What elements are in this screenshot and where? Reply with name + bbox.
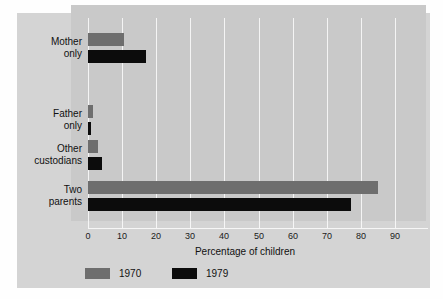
tick-label-90: 90 xyxy=(383,231,407,242)
gridline-30 xyxy=(190,18,191,228)
tick-label-60: 60 xyxy=(281,231,305,242)
tick-label-80: 80 xyxy=(349,231,373,242)
bar-1979-Father-only xyxy=(88,122,91,135)
bar-1970-Father-only xyxy=(88,105,93,118)
gridline-80 xyxy=(361,18,362,228)
legend-label-1970: 1970 xyxy=(119,268,141,279)
gridline-50 xyxy=(259,18,260,228)
tick-60 xyxy=(293,222,294,228)
category-label-line: custodians xyxy=(0,155,82,167)
tick-label-50: 50 xyxy=(247,231,271,242)
chart-figure: 0102030405060708090 MotheronlyFatheronly… xyxy=(0,0,443,299)
category-label-Father-only: Fatheronly xyxy=(0,108,82,132)
category-label-Mother-only: Motheronly xyxy=(0,36,82,60)
bar-1979-Mother-only xyxy=(88,50,146,63)
category-label-line: Two xyxy=(0,184,82,196)
tick-10 xyxy=(122,222,123,228)
bar-1970-Two-parents xyxy=(88,181,378,194)
category-label-Two-parents: Twoparents xyxy=(0,184,82,208)
category-label-line: Other xyxy=(0,143,82,155)
legend-label-1979: 1979 xyxy=(206,268,228,279)
tick-label-40: 40 xyxy=(212,231,236,242)
tick-label-0: 0 xyxy=(76,231,100,242)
x-axis-title: Percentage of children xyxy=(150,246,340,257)
legend-swatch-1979 xyxy=(172,268,197,279)
category-label-line: only xyxy=(0,120,82,132)
tick-label-10: 10 xyxy=(110,231,134,242)
legend-swatch-1970 xyxy=(85,268,110,279)
bar-1979-Two-parents xyxy=(88,198,351,211)
gridline-90 xyxy=(395,18,396,228)
bar-1970-Other-custodians xyxy=(88,140,98,153)
tick-40 xyxy=(224,222,225,228)
tick-label-20: 20 xyxy=(144,231,168,242)
tick-80 xyxy=(361,222,362,228)
tick-label-70: 70 xyxy=(315,231,339,242)
tick-0 xyxy=(88,222,89,228)
gridline-70 xyxy=(327,18,328,228)
legend-item-1970: 1970 xyxy=(85,266,141,280)
tick-90 xyxy=(395,222,396,228)
category-label-line: only xyxy=(0,48,82,60)
gridline-60 xyxy=(293,18,294,228)
x-axis-line xyxy=(88,228,428,229)
bar-1979-Other-custodians xyxy=(88,157,102,170)
tick-label-30: 30 xyxy=(178,231,202,242)
tick-50 xyxy=(259,222,260,228)
tick-70 xyxy=(327,222,328,228)
bar-1970-Mother-only xyxy=(88,33,124,46)
legend-item-1979: 1979 xyxy=(172,266,228,280)
tick-20 xyxy=(156,222,157,228)
tick-30 xyxy=(190,222,191,228)
category-label-line: Father xyxy=(0,108,82,120)
gridline-40 xyxy=(224,18,225,228)
category-label-line: Mother xyxy=(0,36,82,48)
category-label-line: parents xyxy=(0,196,82,208)
gridline-20 xyxy=(156,18,157,228)
category-label-Other-custodians: Othercustodians xyxy=(0,143,82,167)
